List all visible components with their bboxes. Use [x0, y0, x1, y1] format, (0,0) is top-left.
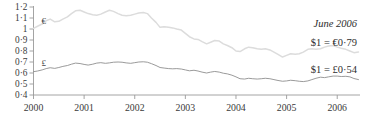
y-tick-label: 1·2 — [15, 2, 28, 12]
y-axis-ticks: 1·21·110·90·80·70·60·50·4 — [15, 2, 33, 100]
exchange-rate-chart: 1·21·110·90·80·70·60·50·4 20002001200220… — [0, 0, 365, 123]
y-tick-label: 0·9 — [15, 35, 28, 45]
euro-rate-annotation: $1 = €0·79 — [311, 37, 357, 48]
pound-rate-annotation: $1 = £0·54 — [311, 64, 358, 75]
y-tick-label: 0·5 — [15, 79, 28, 89]
x-tick-label: 2001 — [74, 102, 94, 113]
x-tick-label: 2002 — [125, 102, 145, 113]
y-tick-label: 0·7 — [15, 57, 28, 67]
y-tick-label: 0·8 — [15, 46, 28, 56]
y-tick-label: 1 — [23, 24, 28, 34]
chart-canvas: 1·21·110·90·80·70·60·50·4 20002001200220… — [0, 0, 365, 123]
pound-series-line — [34, 62, 359, 82]
x-tick-label: 2000 — [24, 102, 44, 113]
y-tick-label: 0·4 — [15, 90, 28, 100]
pound-symbol-label: £ — [42, 58, 47, 68]
x-tick-label: 2005 — [277, 102, 297, 113]
series-symbol-labels: €£ — [42, 16, 47, 69]
euro-symbol-label: € — [42, 16, 47, 26]
y-tick-label: 1·1 — [15, 13, 28, 23]
y-tick-label: 0·6 — [15, 68, 28, 78]
x-tick-label: 2003 — [176, 102, 196, 113]
euro-series-line — [34, 10, 359, 57]
x-axis-ticks: 2000200120022003200420052006 — [24, 95, 347, 113]
x-tick-label: 2006 — [327, 102, 347, 113]
x-tick-label: 2004 — [226, 102, 246, 113]
date-annotation: June 2006 — [314, 18, 358, 29]
